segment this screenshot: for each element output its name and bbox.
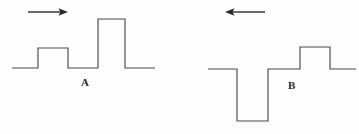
panel-label-a: A bbox=[81, 77, 89, 88]
waveform-a-path bbox=[12, 19, 155, 68]
waveform-b-path bbox=[208, 47, 356, 121]
figure-canvas bbox=[0, 0, 359, 134]
pulse-waveform-figure: A B bbox=[0, 0, 359, 134]
panel-label-b: B bbox=[288, 80, 296, 91]
panel-b-direction-arrow-group bbox=[225, 8, 265, 16]
panel-a-direction-arrow-group bbox=[28, 8, 68, 16]
